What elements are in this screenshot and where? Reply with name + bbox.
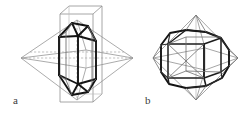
panel-b-group xyxy=(153,15,238,100)
panel-b-label: b xyxy=(145,95,151,106)
panel-a-crystal xyxy=(59,23,96,95)
figure-svg xyxy=(0,0,250,117)
crystal-diagram-figure: a b xyxy=(0,0,250,117)
panel-b-truncation-faces xyxy=(161,32,229,88)
panel-a-group xyxy=(21,6,133,102)
panel-a-label: a xyxy=(13,95,18,106)
panel-b-crystal-edges xyxy=(168,30,221,86)
